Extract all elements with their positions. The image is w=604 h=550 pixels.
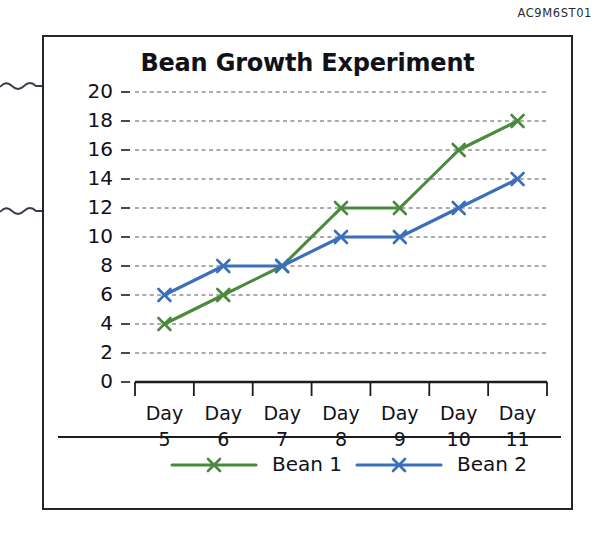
y-axis-tick-labels: 02468101214161820 bbox=[88, 79, 113, 393]
x-axis-tick-label: 6 bbox=[217, 428, 229, 450]
y-axis-tick-label: 8 bbox=[100, 253, 113, 277]
page-tear-wave-icon bbox=[0, 78, 44, 94]
series-line-bean-1 bbox=[164, 121, 517, 324]
x-axis-tick-label: 8 bbox=[335, 428, 347, 450]
y-axis-tick-label: 2 bbox=[100, 340, 113, 364]
y-axis-tick-dashes bbox=[121, 92, 130, 382]
x-axis-tick-label: Day bbox=[381, 402, 419, 424]
chart-frame: Bean Growth Experiment Height (cm) 02468… bbox=[42, 35, 573, 510]
chart-legend: Bean 1Bean 2 bbox=[58, 437, 561, 476]
x-axis-tick-label: 10 bbox=[447, 428, 471, 450]
gridlines bbox=[135, 92, 547, 353]
y-axis-tick-label: 0 bbox=[100, 369, 113, 393]
y-axis-tick-label: 14 bbox=[88, 166, 113, 190]
x-axis-tick-label: 5 bbox=[158, 428, 170, 450]
x-axis-tick-labels: Day5Day6Day7Day8Day9Day10Day11 bbox=[146, 402, 537, 450]
y-axis-tick-label: 16 bbox=[88, 137, 113, 161]
page-tear-wave-icon bbox=[0, 203, 44, 219]
x-axis-tick-label: Day bbox=[322, 402, 360, 424]
x-axis-tick-label: Day bbox=[263, 402, 301, 424]
x-axis-tick-label: 11 bbox=[505, 428, 529, 450]
y-axis-tick-label: 6 bbox=[100, 282, 113, 306]
x-axis-tick-label: Day bbox=[205, 402, 243, 424]
x-axis-tick-label: Day bbox=[440, 402, 478, 424]
x-axis bbox=[135, 382, 547, 396]
legend-label: Bean 2 bbox=[457, 452, 527, 476]
x-axis-tick-label: Day bbox=[499, 402, 537, 424]
y-axis-tick-label: 18 bbox=[88, 108, 113, 132]
data-series bbox=[158, 115, 523, 330]
y-axis-tick-label: 20 bbox=[88, 79, 113, 103]
legend-label: Bean 1 bbox=[272, 452, 342, 476]
item-code: AC9M6ST01 bbox=[517, 6, 592, 20]
y-axis-tick-label: 10 bbox=[88, 224, 113, 248]
x-axis-tick-label: 7 bbox=[276, 428, 288, 450]
y-axis-tick-label: 12 bbox=[88, 195, 113, 219]
y-axis-tick-label: 4 bbox=[100, 311, 113, 335]
y-axis-title: Height (cm) bbox=[0, 52, 3, 252]
line-chart-plot: 02468101214161820 Day5Day6Day7Day8Day9Da… bbox=[44, 37, 575, 512]
x-axis-tick-label: 9 bbox=[394, 428, 406, 450]
x-axis-tick-label: Day bbox=[146, 402, 184, 424]
